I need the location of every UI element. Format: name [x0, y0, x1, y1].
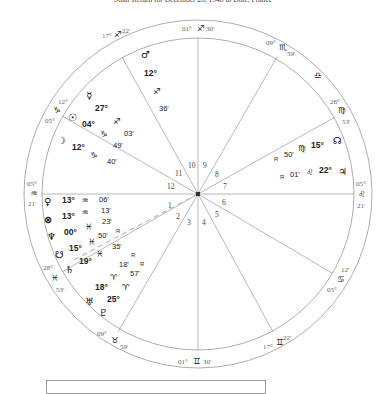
cusp-6 [198, 194, 332, 273]
planet-venus: ♀ 13° ♒ 06' [44, 195, 109, 207]
asc-sign: ♒ [30, 188, 38, 198]
south-node-minute: 50' [98, 231, 108, 240]
dsc-minute: 21' [357, 202, 365, 210]
intercepted-sign: ♎ [314, 70, 322, 80]
sun-icon: ☉ [68, 112, 77, 123]
c5-degree: 17° [263, 343, 273, 351]
south-node-degree: 15° [69, 243, 82, 253]
c9-sign: ♏ [279, 42, 287, 52]
mercury-icon: ☿ [86, 90, 92, 101]
c12-minute: 05° [45, 117, 55, 125]
saturn-sign: ♓ [96, 249, 104, 259]
neptune-icon: ♆ [47, 231, 56, 242]
south-node-retrograde: R [116, 228, 121, 234]
planet-moon: ☽ 12° ♑ 40' [57, 135, 117, 166]
neptune-sign: ♓ [85, 222, 93, 232]
cusp-5 [198, 194, 273, 332]
planet-mercury: ☿ 27° ♐ 03' [86, 90, 134, 138]
venus-minute: 06' [99, 195, 109, 204]
north-node-degree: 15° [311, 140, 324, 150]
moon-degree: 12° [72, 142, 85, 152]
c2-degree: 28° [43, 264, 53, 272]
uranus-icon: ♅ [85, 296, 94, 307]
pluto-retrograde: R [140, 261, 145, 267]
planet-jupiter: ♃ 22° ♌ 01' R [280, 165, 347, 180]
house-7: 7 [223, 182, 227, 191]
uranus-degree: 18° [95, 282, 108, 292]
jupiter-degree: 22° [319, 165, 332, 175]
moon-sign: ♑ [90, 150, 98, 160]
sun-sign: ♑ [100, 129, 108, 139]
fortune-sign: ♒ [81, 207, 89, 217]
sun-degree: 04° [82, 119, 95, 129]
mars-minute: 36' [159, 104, 169, 113]
north-node-sign: ♍ [298, 143, 306, 153]
c9-minute: 59' [287, 50, 295, 58]
c8-sign: ♍ [338, 105, 346, 115]
house-5: 5 [215, 210, 219, 219]
c2-sign: ♓ [51, 273, 59, 283]
neptune-degree: 00° [64, 227, 77, 237]
ic-sign: ♊ [193, 356, 201, 366]
c11-minute: 22' [122, 27, 130, 35]
cusp-11 [122, 57, 198, 194]
cusp-9 [198, 57, 277, 194]
north-node-minute: 50' [284, 150, 294, 159]
c12-sign: ♑ [53, 105, 61, 115]
house-10: 10 [188, 161, 196, 170]
center-dot [196, 192, 200, 196]
venus-sign: ♒ [81, 195, 89, 205]
venus-icon: ♀ [44, 196, 51, 207]
c6-sign: ♋ [337, 274, 345, 284]
mars-icon: ♂ [141, 49, 150, 60]
c6-minute: 05° [327, 286, 337, 294]
saturn-minute: 35' [112, 242, 122, 251]
uranus-minute: 18' [119, 260, 129, 269]
asc-degree: 05° [27, 180, 37, 188]
mc-degree: 01° [182, 25, 192, 33]
fortune-degree: 13° [62, 211, 75, 221]
jupiter-icon: ♃ [338, 166, 347, 177]
pluto-icon: ♇ [99, 307, 108, 318]
house-1: 1 [168, 201, 172, 210]
venus-degree: 13° [62, 195, 75, 205]
jupiter-minute: 01' [290, 170, 300, 179]
cusp-8 [198, 117, 335, 194]
ic-minute: 30' [203, 358, 211, 366]
uranus-sign: ♈ [110, 272, 118, 282]
dsc-degree: 05° [356, 180, 366, 188]
legend-box [46, 380, 266, 394]
moon-icon: ☽ [57, 135, 66, 146]
house-11: 11 [175, 169, 182, 178]
house-3: 3 [187, 218, 191, 227]
house-6: 6 [222, 198, 226, 207]
c6-degree: 12' [341, 266, 349, 274]
moon-minute: 40' [107, 157, 117, 166]
mc-minute: 30' [206, 25, 214, 33]
c11-degree: 17° [102, 32, 112, 40]
c3-minute: 59' [120, 343, 128, 351]
c3-sign: ♉ [111, 335, 119, 345]
dsc-sign: ♌ [358, 189, 366, 199]
c5-minute: 22' [283, 334, 291, 342]
ic-degree: 01° [178, 358, 188, 366]
neptune-minute: 23' [102, 217, 112, 226]
asc-minute: 21' [28, 200, 36, 208]
pluto-sign: ♈ [122, 282, 130, 292]
north-node-retrograde: R [274, 156, 279, 162]
planet-mars: ♂ 12° ♐ 36' [141, 49, 169, 113]
c9-degree: 09° [266, 39, 276, 47]
mercury-degree: 27° [95, 103, 108, 113]
mercury-sign: ♐ [113, 116, 121, 126]
jupiter-sign: ♌ [306, 167, 314, 177]
c11-sign: ♐ [114, 29, 122, 39]
south-node-sign: ♓ [88, 237, 96, 247]
north-node-icon: ☊ [333, 135, 342, 146]
saturn-degree: 19° [79, 256, 92, 266]
planet-north-node: ☊ 15° ♍ 50' R [274, 135, 342, 162]
c3-degree: 09° [97, 330, 107, 338]
mc-sign: ♐ [197, 23, 205, 33]
house-4: 4 [202, 218, 206, 227]
sun-minute: 49' [113, 141, 123, 150]
